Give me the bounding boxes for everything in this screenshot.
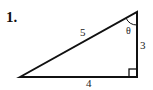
right-angle-marker: [129, 69, 137, 77]
horizontal-leg-label: 4: [86, 77, 92, 89]
right-triangle-figure: [0, 0, 153, 90]
triangle: [20, 12, 137, 77]
vertical-leg-label: 3: [140, 39, 146, 51]
angle-arc-theta: [126, 18, 137, 25]
angle-label: θ: [126, 25, 131, 36]
hypotenuse-label: 5: [80, 26, 86, 38]
